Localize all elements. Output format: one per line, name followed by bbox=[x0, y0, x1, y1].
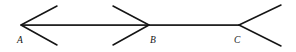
fin-c-upper-icon bbox=[239, 5, 281, 25]
vertex-label-b: B bbox=[150, 35, 156, 45]
muller-lyer-figure: A B C bbox=[0, 0, 296, 52]
fin-b-upper-icon bbox=[113, 6, 149, 25]
fin-c-lower-icon bbox=[239, 25, 281, 46]
fin-a-lower-icon bbox=[21, 25, 57, 45]
vertex-label-a: A bbox=[17, 35, 23, 45]
fin-b-lower-icon bbox=[113, 25, 149, 45]
vertex-label-c: C bbox=[234, 35, 240, 45]
fin-a-upper-icon bbox=[21, 6, 57, 25]
figure-drawing bbox=[0, 0, 296, 52]
